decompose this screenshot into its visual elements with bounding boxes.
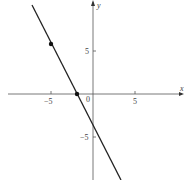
y-tick-label-neg5: −5 (80, 133, 89, 142)
point-neg5-6 (49, 42, 53, 46)
y-axis-label: y (96, 1, 101, 10)
y-tick-label-5: 5 (85, 47, 89, 56)
origin-label: 0 (86, 95, 90, 104)
point-neg2-0 (75, 92, 79, 96)
x-tick-label-neg5: −5 (44, 97, 53, 106)
line-chart: x y −5 0 5 5 −5 (0, 0, 184, 180)
x-tick-label-5: 5 (133, 97, 137, 106)
y-axis-arrow-icon (91, 0, 95, 6)
x-axis-label: x (179, 84, 184, 93)
